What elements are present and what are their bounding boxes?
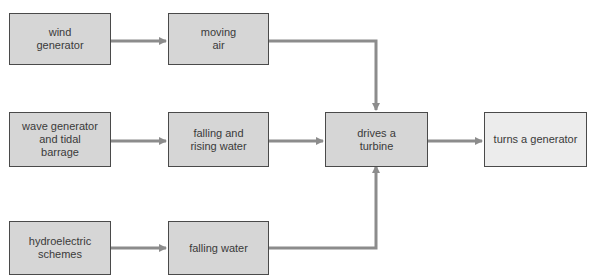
node-moving-air: moving air <box>168 13 269 65</box>
arrow-falling-to-turbine <box>268 166 376 248</box>
arrow-air-to-turbine <box>268 41 376 110</box>
node-label: wind generator <box>36 26 83 52</box>
node-label: drives a turbine <box>357 127 396 153</box>
node-hydroelectric: hydroelectric schemes <box>9 221 111 275</box>
node-wave-generator: wave generator and tidal barrage <box>9 112 111 167</box>
node-wind-generator: wind generator <box>9 13 111 65</box>
node-label: falling and rising water <box>190 127 246 153</box>
node-label: moving air <box>201 26 236 52</box>
node-turns-generator: turns a generator <box>484 112 587 167</box>
node-label: wave generator and tidal barrage <box>22 120 98 159</box>
node-drives-turbine: drives a turbine <box>325 112 428 167</box>
node-label: hydroelectric schemes <box>29 235 91 261</box>
node-falling-water: falling water <box>168 221 269 275</box>
node-label: falling water <box>189 242 248 255</box>
node-label: turns a generator <box>494 133 578 146</box>
node-falling-rising-water: falling and rising water <box>168 112 269 167</box>
